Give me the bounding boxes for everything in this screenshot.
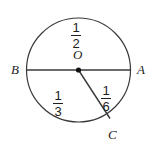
sector-label-one-sixth: 1 6	[101, 84, 111, 113]
point-label-A: A	[137, 63, 145, 76]
fraction-numerator: 1	[53, 89, 62, 102]
point-label-C: C	[108, 128, 117, 141]
sector-label-one-third: 1 3	[53, 89, 63, 118]
fraction-numerator: 1	[101, 84, 110, 97]
sector-label-one-half: 1 2	[71, 21, 81, 50]
center-point-dot	[76, 67, 81, 72]
fraction-numerator: 1	[71, 21, 80, 34]
fraction-denominator: 2	[71, 37, 80, 50]
fraction-denominator: 3	[53, 105, 62, 118]
circle-fraction-diagram: B A O C 1 2 1 3 1 6	[0, 0, 156, 149]
point-label-B: B	[11, 63, 19, 76]
fraction-denominator: 6	[101, 100, 110, 113]
